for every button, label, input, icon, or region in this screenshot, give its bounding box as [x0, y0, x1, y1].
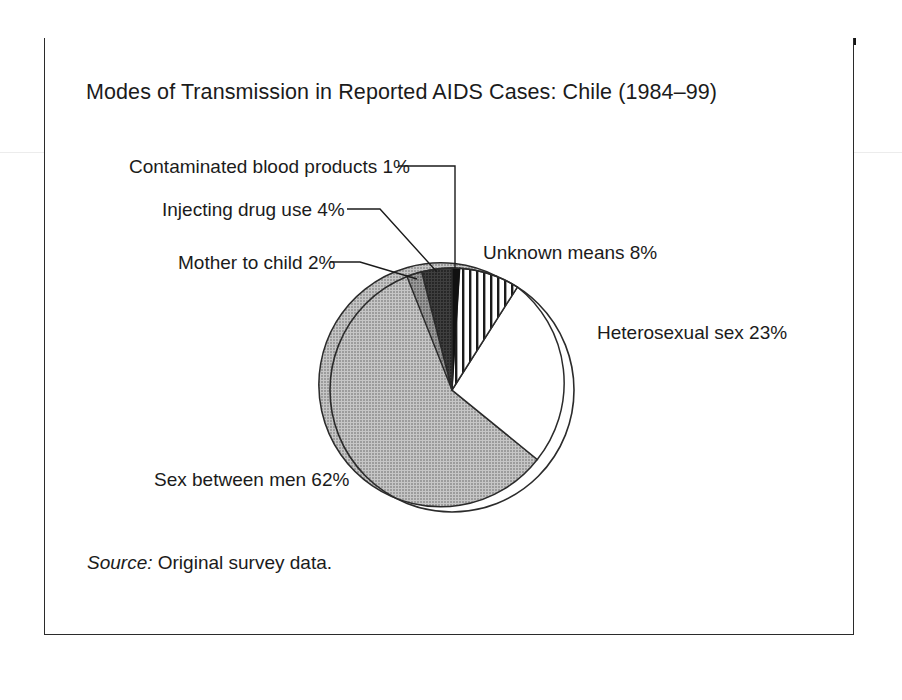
label-unknown-means: Unknown means 8% [483, 243, 657, 264]
source-text: Original survey data. [152, 552, 332, 573]
leader-lines [330, 166, 455, 279]
label-injecting-drug-use: Injecting drug use 4% [162, 200, 345, 221]
leader-line-contaminated [398, 166, 455, 268]
label-heterosexual-sex: Heterosexual sex 23% [597, 323, 787, 344]
source-note: Source: Original survey data. [87, 552, 332, 574]
label-sex-between-men: Sex between men 62% [154, 470, 349, 491]
pie-slices [319, 263, 574, 512]
label-contaminated-blood-products: Contaminated blood products 1% [129, 157, 410, 178]
pie-chart [0, 0, 902, 700]
source-label: Source: [87, 552, 152, 573]
label-mother-to-child: Mother to child 2% [178, 253, 335, 274]
figure-root: Modes of Transmission in Reported AIDS C… [0, 0, 902, 700]
